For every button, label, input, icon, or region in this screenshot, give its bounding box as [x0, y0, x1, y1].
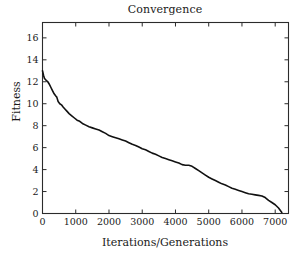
x-tick-label: 3000	[130, 216, 154, 227]
y-tick-label: 16	[26, 32, 38, 43]
x-tick-label: 4000	[163, 216, 187, 227]
y-tick-label: 0	[32, 208, 38, 219]
y-tick-label: 8	[32, 120, 38, 131]
tick-labels-group: 0100020003000400050006000700002468101214…	[26, 32, 287, 226]
tick-marks-group	[43, 23, 289, 214]
axes-frame	[43, 23, 289, 214]
y-tick-label: 12	[26, 76, 38, 87]
x-tick-label: 7000	[263, 216, 287, 227]
y-tick-label: 14	[26, 54, 38, 65]
x-tick-label: 0	[39, 216, 45, 227]
x-tick-label: 5000	[197, 216, 221, 227]
figure-canvas: Convergence Fitness Iterations/Generatio…	[0, 0, 300, 264]
data-series-line	[43, 71, 282, 213]
y-tick-label: 4	[32, 164, 38, 175]
y-tick-label: 2	[32, 186, 38, 197]
x-tick-label: 2000	[97, 216, 121, 227]
y-tick-label: 10	[26, 98, 38, 109]
y-tick-label: 6	[32, 142, 38, 153]
x-tick-label: 1000	[64, 216, 88, 227]
plot-area: 0100020003000400050006000700002468101214…	[0, 0, 300, 264]
x-tick-label: 6000	[230, 216, 254, 227]
